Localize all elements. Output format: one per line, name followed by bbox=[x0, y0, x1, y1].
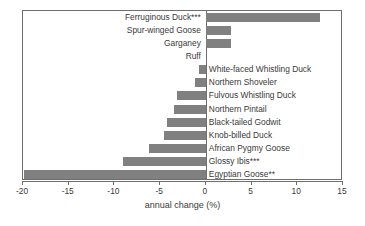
bar-row: Glossy Ibis*** bbox=[23, 155, 341, 168]
x-tick-label: -5 bbox=[155, 186, 162, 196]
bar-row: Spur-winged Goose bbox=[23, 24, 341, 37]
bar bbox=[206, 39, 232, 48]
bar bbox=[177, 91, 206, 100]
bars-layer: Ferruginous Duck***Spur-winged GooseGarg… bbox=[23, 11, 341, 179]
bar-category-label: Egyptian Goose** bbox=[209, 168, 275, 181]
x-tick bbox=[22, 181, 23, 185]
x-tick-label: -15 bbox=[62, 186, 74, 196]
x-axis-title: annual change (%) bbox=[0, 200, 365, 210]
x-tick bbox=[342, 181, 343, 185]
bar-row: Black-tailed Godwit bbox=[23, 116, 341, 129]
bar bbox=[167, 118, 205, 127]
bar bbox=[174, 105, 206, 114]
x-tick bbox=[251, 181, 252, 185]
bar-row: Fulvous Whistling Duck bbox=[23, 89, 341, 102]
x-axis: -20-15-10-5051015 bbox=[22, 181, 342, 182]
bar-category-label: Ferruginous Duck*** bbox=[125, 11, 201, 24]
bar-row: Northern Shoveler bbox=[23, 76, 341, 89]
bar-category-label: African Pygmy Goose bbox=[209, 142, 290, 155]
bar bbox=[206, 26, 232, 35]
bar-row: Northern Pintail bbox=[23, 103, 341, 116]
x-tick-label: 5 bbox=[248, 186, 253, 196]
bar-category-label: Northern Pintail bbox=[209, 103, 267, 116]
bar bbox=[195, 78, 206, 87]
x-tick-label: -10 bbox=[107, 186, 119, 196]
x-tick bbox=[296, 181, 297, 185]
x-tick-label: 10 bbox=[292, 186, 301, 196]
bar bbox=[206, 13, 320, 22]
x-tick bbox=[113, 181, 114, 185]
x-tick bbox=[159, 181, 160, 185]
x-tick-label: 15 bbox=[337, 186, 346, 196]
x-tick bbox=[205, 181, 206, 185]
plot-area: Ferruginous Duck***Spur-winged GooseGarg… bbox=[22, 10, 342, 180]
bar-category-label: Spur-winged Goose bbox=[127, 24, 201, 37]
bar-row: Garganey bbox=[23, 37, 341, 50]
bar-category-label: Black-tailed Godwit bbox=[209, 116, 281, 129]
bar bbox=[123, 157, 206, 166]
x-tick bbox=[68, 181, 69, 185]
bar-category-label: Glossy Ibis*** bbox=[209, 155, 260, 168]
bar-row: Knob-billed Duck bbox=[23, 129, 341, 142]
bar bbox=[24, 170, 206, 179]
bar-row: Ferruginous Duck*** bbox=[23, 11, 341, 24]
bar-row: Egyptian Goose** bbox=[23, 168, 341, 181]
x-tick-label: -20 bbox=[16, 186, 28, 196]
bar bbox=[199, 65, 206, 74]
bar-category-label: Garganey bbox=[164, 37, 201, 50]
bar bbox=[149, 144, 206, 153]
bar-row: Ruff bbox=[23, 50, 341, 63]
bar-row: African Pygmy Goose bbox=[23, 142, 341, 155]
bar bbox=[164, 131, 206, 140]
bar-row: White-faced Whistling Duck bbox=[23, 63, 341, 76]
chart-container: Ferruginous Duck***Spur-winged GooseGarg… bbox=[0, 0, 365, 226]
bar-category-label: Ruff bbox=[186, 50, 201, 63]
x-tick-label: 0 bbox=[203, 186, 208, 196]
bar-category-label: White-faced Whistling Duck bbox=[209, 63, 311, 76]
bar-category-label: Northern Shoveler bbox=[209, 76, 277, 89]
bar-category-label: Fulvous Whistling Duck bbox=[209, 89, 296, 102]
bar-category-label: Knob-billed Duck bbox=[209, 129, 272, 142]
